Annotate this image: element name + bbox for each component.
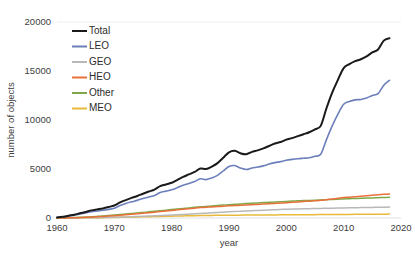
legend-label-heo: HEO: [89, 71, 111, 82]
y-axis-tick-labels: 05000100001500020000: [25, 16, 51, 223]
x-axis-tick-labels: 1960197019801990200020102020: [46, 222, 411, 233]
legend-label-other: Other: [89, 87, 115, 98]
y-tick-label: 10000: [25, 114, 51, 125]
y-tick-label: 20000: [25, 16, 51, 27]
x-tick-label: 1970: [104, 222, 125, 233]
chart-container: 05000100001500020000 1960197019801990200…: [0, 0, 415, 264]
y-axis-title: number of objects: [5, 82, 16, 158]
gridlines: [57, 22, 401, 218]
series-line-leo: [57, 80, 390, 217]
legend-label-meo: MEO: [89, 102, 112, 113]
y-tick-label: 15000: [25, 65, 51, 76]
x-tick-label: 2010: [333, 222, 354, 233]
legend-label-geo: GEO: [89, 56, 111, 67]
x-tick-label: 1980: [161, 222, 182, 233]
x-tick-label: 2020: [390, 222, 411, 233]
y-tick-label: 5000: [30, 163, 51, 174]
line-chart: 05000100001500020000 1960197019801990200…: [0, 0, 415, 264]
x-axis-title: year: [220, 237, 238, 248]
chart-legend: TotalLEOGEOHEOOtherMEO: [72, 25, 115, 114]
x-tick-label: 2000: [276, 222, 297, 233]
x-tick-label: 1960: [46, 222, 67, 233]
x-tick-label: 1990: [218, 222, 239, 233]
legend-label-total: Total: [89, 25, 110, 36]
legend-label-leo: LEO: [89, 40, 109, 51]
